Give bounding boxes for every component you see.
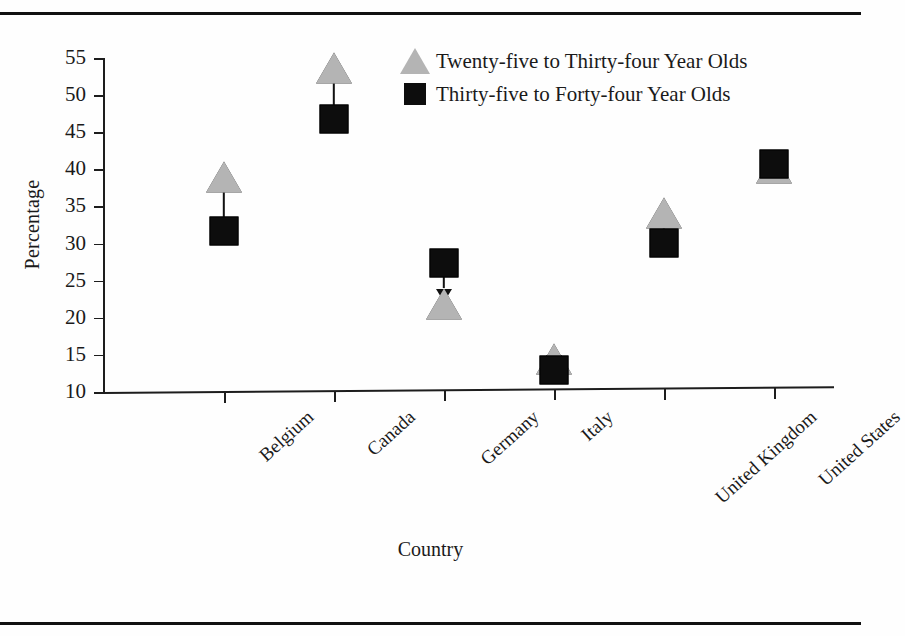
data-point-triangle: [646, 198, 682, 229]
x-axis-tick: [664, 389, 666, 400]
x-axis-tick-label: United Kingdom: [711, 406, 821, 508]
legend-item-older: Thirty-five to Forty-four Year Olds: [394, 77, 814, 110]
data-point-triangle: [206, 162, 242, 193]
y-axis-tick: [94, 132, 103, 134]
square-icon: [394, 83, 436, 105]
x-axis-tick: [224, 392, 226, 403]
x-axis-tick-label: Belgium: [255, 406, 318, 466]
x-axis-line: [103, 386, 834, 394]
data-point-square: [650, 228, 679, 257]
y-axis-tick: [94, 95, 103, 97]
y-axis-line: [103, 58, 105, 394]
page-rule-top: [0, 12, 861, 15]
y-axis-tick-label: 20: [40, 307, 86, 328]
y-axis-tick: [94, 318, 103, 320]
legend-label-young: Twenty-five to Thirty-four Year Olds: [436, 50, 747, 72]
legend-label-older: Thirty-five to Forty-four Year Olds: [436, 83, 731, 105]
x-axis-tick-label: Canada: [363, 406, 420, 460]
legend-item-young: Twenty-five to Thirty-four Year Olds: [394, 44, 814, 77]
y-axis-tick: [94, 169, 103, 171]
x-axis-label: Country: [0, 538, 861, 561]
chart-figure: Percentage Country 10152025303540455055 …: [0, 18, 861, 618]
data-point-square: [320, 105, 349, 134]
y-axis-tick-label: 40: [40, 158, 86, 179]
y-axis-tick-label: 10: [40, 381, 86, 402]
y-axis-tick: [94, 58, 103, 60]
y-axis-tick: [94, 355, 103, 357]
y-axis-tick-label: 15: [40, 344, 86, 365]
y-axis-tick-label: 45: [40, 121, 86, 142]
y-axis-tick-label: 50: [40, 84, 86, 105]
y-axis-tick: [94, 206, 103, 208]
y-axis-tick: [94, 281, 103, 283]
x-axis-tick: [334, 391, 336, 402]
x-axis-tick: [444, 390, 446, 401]
x-axis-tick-label: Italy: [577, 406, 618, 446]
x-axis-tick: [774, 388, 776, 399]
y-axis-tick: [94, 244, 103, 246]
page-rule-bottom: [0, 622, 861, 625]
y-axis-tick: [94, 392, 103, 394]
x-axis-tick-label: Germany: [476, 406, 543, 470]
data-point-square: [540, 355, 569, 384]
y-axis-tick-label: 30: [40, 233, 86, 254]
data-point-square: [430, 249, 459, 278]
y-axis-tick-label: 25: [40, 270, 86, 291]
y-axis-tick-label: 35: [40, 195, 86, 216]
data-point-triangle: [316, 53, 352, 84]
data-point-square: [760, 150, 789, 179]
chart-legend: Twenty-five to Thirty-four Year Olds Thi…: [394, 44, 814, 110]
x-axis-tick: [554, 389, 556, 400]
triangle-icon: [394, 48, 436, 74]
data-point-triangle: [426, 288, 462, 319]
y-axis-tick-label: 55: [40, 47, 86, 68]
data-point-square: [210, 216, 239, 245]
x-axis-tick-label: United States: [814, 406, 904, 491]
